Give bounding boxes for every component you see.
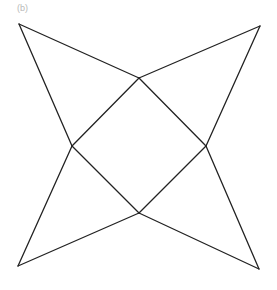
edge-outer_bottom_right-inner_right [206,146,259,269]
edge-outer_top_left-inner_left [19,24,72,146]
edge-inner_left-inner_bottom [72,146,139,213]
star-diagram [0,0,277,290]
edge-outer_top_right-inner_top [139,26,260,78]
edge-outer_bottom_right-inner_bottom [139,213,259,269]
edge-outer_bottom_left-inner_bottom [18,213,139,266]
edge-outer_top_right-inner_right [206,26,260,146]
edge-inner_top-inner_left [72,78,139,146]
edge-inner_bottom-inner_right [139,146,206,213]
edge-outer_top_left-inner_top [19,24,139,78]
edge-inner_right-inner_top [139,78,206,146]
edge-outer_bottom_left-inner_left [18,146,72,266]
